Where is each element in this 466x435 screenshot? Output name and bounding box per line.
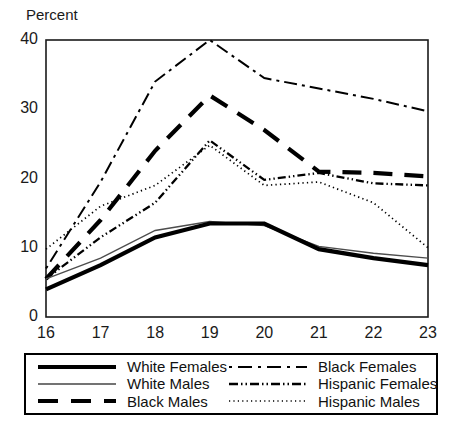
x-tick-label: 16 xyxy=(31,325,61,341)
legend-label: White Males xyxy=(127,375,210,392)
legend-label: White Females xyxy=(127,358,227,375)
x-tick-label: 21 xyxy=(304,325,334,341)
x-tick-label: 20 xyxy=(249,325,279,341)
legend-swatch-solid-thick xyxy=(36,361,118,373)
legend-swatch-dotted xyxy=(227,395,309,407)
x-tick-label: 17 xyxy=(86,325,116,341)
legend-item-black-males[interactable]: Black Males xyxy=(36,393,227,410)
legend-label: Hispanic Females xyxy=(318,375,437,392)
x-tick-label: 18 xyxy=(140,325,170,341)
legend-label: Black Females xyxy=(318,358,416,375)
legend-item-white-males[interactable]: White Males xyxy=(36,375,227,392)
legend: White Females Black Females White Males … xyxy=(24,353,438,415)
x-tick-label: 23 xyxy=(413,325,443,341)
legend-item-white-females[interactable]: White Females xyxy=(36,358,227,375)
legend-label: Hispanic Males xyxy=(318,393,420,410)
legend-swatch-solid-thin xyxy=(36,378,118,390)
x-tick-label: 19 xyxy=(195,325,225,341)
legend-swatch-dashed-thick xyxy=(36,395,118,407)
legend-item-hispanic-females[interactable]: Hispanic Females xyxy=(227,375,437,392)
legend-swatch-dash-dot xyxy=(227,378,309,390)
legend-label: Black Males xyxy=(127,393,208,410)
legend-swatch-dashed-thin xyxy=(227,361,309,373)
x-tick-label: 22 xyxy=(358,325,388,341)
legend-item-hispanic-males[interactable]: Hispanic Males xyxy=(227,393,437,410)
legend-item-black-females[interactable]: Black Females xyxy=(227,358,437,375)
